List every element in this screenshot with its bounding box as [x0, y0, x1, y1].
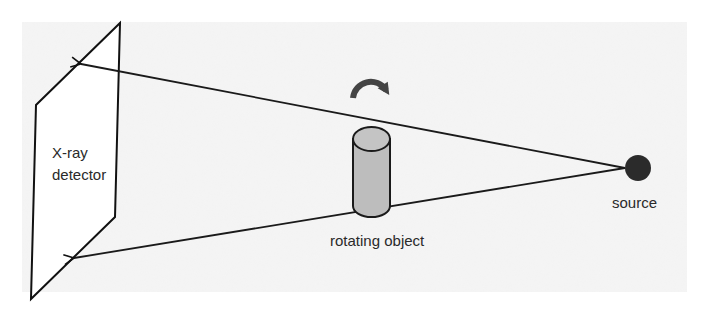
detector-label-line2: detector: [52, 164, 106, 186]
diagram-canvas: [0, 0, 709, 322]
cylinder-object: [353, 127, 390, 217]
source-dot: [625, 155, 651, 181]
source-label: source: [612, 192, 657, 214]
detector-label-line1: X-ray: [52, 142, 106, 164]
detector-label: X-ray detector: [52, 142, 106, 186]
rotating-object-label: rotating object: [330, 230, 424, 252]
